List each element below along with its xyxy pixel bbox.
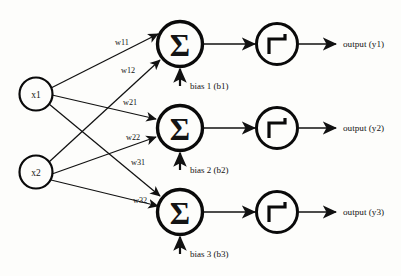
neuron-3: Σ bias 3 (b3) output (y3) xyxy=(158,190,385,260)
edge-x2-to-neuron-1 xyxy=(49,60,160,162)
weight-label-w11: w11 xyxy=(115,38,129,47)
edge-x1-to-neuron-3 xyxy=(49,104,160,196)
edge-x2-to-neuron-2 xyxy=(52,137,156,174)
edge-x1-to-neuron-2 xyxy=(52,95,156,119)
bias-label-2: bias 2 (b2) xyxy=(190,165,229,175)
weight-labels: w11 w12 w21 w22 w31 w32 xyxy=(115,38,147,205)
input-layer: x1 x2 xyxy=(20,78,53,189)
output-label-y2: output (y2) xyxy=(343,123,384,133)
neuron-2: Σ bias 2 (b2) output (y2) xyxy=(158,106,385,176)
edge-x1-to-neuron-1 xyxy=(51,34,158,88)
activation-node-1[interactable] xyxy=(257,24,298,65)
summation-node-2-label: Σ xyxy=(170,112,190,147)
summation-node-3-label: Σ xyxy=(170,196,190,231)
bias-label-1: bias 1 (b1) xyxy=(190,81,229,91)
input-node-x1-label: x1 xyxy=(31,90,41,100)
weight-label-w31: w31 xyxy=(131,158,145,167)
neuron-1: Σ bias 1 (b1) output (y1) xyxy=(158,22,385,92)
weight-label-w22: w22 xyxy=(126,133,140,142)
diagram-canvas: x1 x2 w11 w12 w21 w22 w31 w32 Σ bias 1 (… xyxy=(0,0,401,276)
neural-network-diagram: x1 x2 w11 w12 w21 w22 w31 w32 Σ bias 1 (… xyxy=(0,0,401,276)
bias-label-3: bias 3 (b3) xyxy=(190,249,229,259)
weight-label-w32: w32 xyxy=(133,196,147,205)
edge-group-x2 xyxy=(49,60,160,206)
output-label-y1: output (y1) xyxy=(343,39,384,49)
activation-node-2[interactable] xyxy=(257,108,298,149)
input-node-x2-label: x2 xyxy=(31,168,41,178)
output-label-y3: output (y3) xyxy=(343,207,384,217)
weight-label-w21: w21 xyxy=(123,98,137,107)
edge-group-x1 xyxy=(49,34,160,196)
summation-node-1-label: Σ xyxy=(170,28,190,63)
activation-node-3[interactable] xyxy=(257,192,298,233)
weight-label-w12: w12 xyxy=(121,66,135,75)
